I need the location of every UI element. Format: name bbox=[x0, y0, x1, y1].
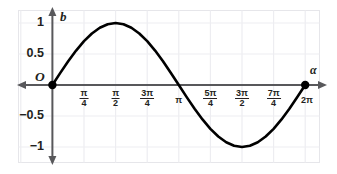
y-tick-label-neg0.5: −0.5 bbox=[5, 109, 44, 122]
origin-label: O bbox=[35, 70, 45, 84]
plot-frame bbox=[19, 11, 320, 163]
x-tick-label-pi-over-2: π2 bbox=[111, 89, 120, 108]
sine-curve-figure: 1 0.5 −0.5 −1 π4 π2 3π4 π 5π4 3π2 7π4 2π… bbox=[0, 0, 337, 174]
x-tick-label-5pi-over-4: 5π4 bbox=[203, 89, 217, 108]
y-tick-label-1: 1 bbox=[16, 16, 44, 29]
y-tick-label-neg1: −1 bbox=[11, 140, 44, 153]
y-tick-label-0.5: 0.5 bbox=[10, 47, 44, 60]
x-tick-label-7pi-over-4: 7π4 bbox=[267, 89, 281, 108]
x-axis-label: α bbox=[310, 64, 317, 76]
x-tick-label-pi: π bbox=[175, 96, 182, 105]
x-tick-label-3pi-over-4: 3π4 bbox=[140, 89, 154, 108]
x-tick-label-2pi: 2π bbox=[301, 96, 313, 105]
origin-point bbox=[48, 81, 56, 89]
endpoint-2pi bbox=[301, 81, 309, 89]
x-axis-arrow-right bbox=[318, 81, 327, 89]
y-axis-label: b bbox=[60, 10, 67, 23]
plot-canvas bbox=[0, 0, 337, 174]
x-tick-label-pi-over-4: π4 bbox=[80, 89, 89, 108]
x-tick-label-3pi-over-2: 3π2 bbox=[235, 89, 249, 108]
